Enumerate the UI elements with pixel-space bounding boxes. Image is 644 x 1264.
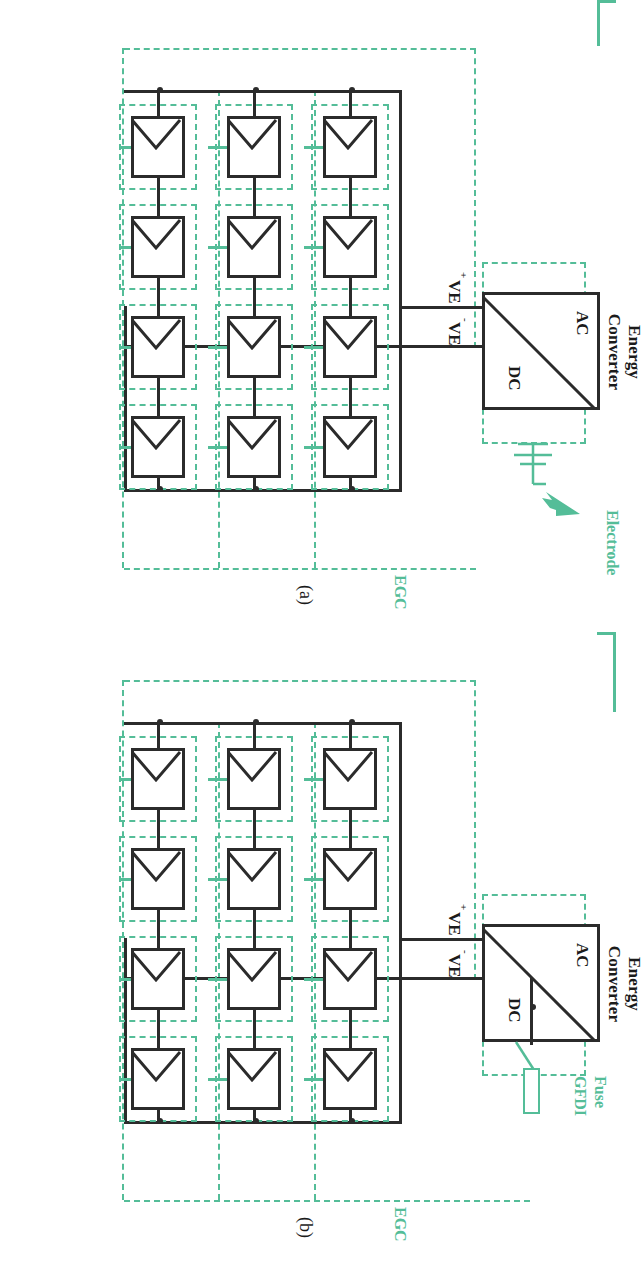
module-lead <box>349 278 352 316</box>
pv-module[interactable] <box>227 416 281 478</box>
egc-bond-stub <box>208 778 227 781</box>
electrode-arrow-icon <box>534 478 586 530</box>
pv-module[interactable] <box>323 1048 377 1110</box>
panel-label-a: (a) <box>295 585 316 605</box>
module-lead <box>349 722 352 748</box>
pv-module[interactable] <box>323 116 377 178</box>
fuse-icon[interactable] <box>523 1068 540 1114</box>
egc-bond-stub <box>304 346 323 349</box>
module-lead <box>253 90 256 116</box>
module-lead <box>157 910 160 948</box>
positive-sign: + <box>458 904 470 910</box>
egc-outer-left <box>124 680 476 682</box>
junction-node <box>157 87 163 93</box>
electrode-lead <box>598 0 601 46</box>
junction-node <box>253 87 259 93</box>
junction-node <box>157 719 163 725</box>
pv-module[interactable] <box>131 1048 185 1110</box>
egc-bond-stub <box>119 978 131 981</box>
egc-outer-top-left <box>474 48 476 348</box>
dc-bus-positive-top <box>399 722 402 1124</box>
egc-bond-stub <box>304 146 323 149</box>
pv-module[interactable] <box>323 216 377 278</box>
egc-outer-right <box>124 568 476 570</box>
electrode-label: Electrode <box>603 510 622 640</box>
converter-title-line1: Energy <box>625 957 644 1011</box>
junction-node <box>253 486 259 492</box>
converter-title-line1: Energy <box>625 325 644 379</box>
panel-label-b: (b) <box>295 1217 316 1238</box>
module-lead <box>157 378 160 416</box>
junction-node <box>157 1118 163 1124</box>
module-lead <box>349 1010 352 1048</box>
module-lead <box>349 378 352 416</box>
junction-node <box>253 1118 259 1124</box>
pv-module[interactable] <box>323 416 377 478</box>
egc-outer-right <box>124 1200 530 1202</box>
egc-bond-stub <box>304 778 323 781</box>
negative-terminal-label: VE <box>444 322 464 346</box>
egc-bond-stub <box>208 878 227 881</box>
egc-bond-stub <box>208 1078 227 1081</box>
junction-node <box>349 719 355 725</box>
converter-title: Energy Converter <box>605 252 644 452</box>
gfdi-tap-lead <box>530 977 533 1045</box>
dc-bus-positive-left <box>124 722 402 725</box>
converter-box[interactable] <box>482 292 600 410</box>
converter-title-line2: Converter <box>605 946 624 1022</box>
pv-module[interactable] <box>131 948 185 1010</box>
gfdi-label: Fuse GFDI <box>570 1076 610 1206</box>
egc-bond-stub <box>119 146 131 149</box>
egc-bond-stub <box>304 878 323 881</box>
pv-module[interactable] <box>131 748 185 810</box>
module-lead <box>349 90 352 116</box>
gfdi-label-line2: GFDI <box>572 1076 589 1116</box>
pv-module[interactable] <box>227 948 281 1010</box>
pv-module[interactable] <box>323 948 377 1010</box>
egc-label: EGC <box>391 1207 410 1242</box>
egc-to-gfdi <box>614 632 617 712</box>
egc-bond-stub <box>304 446 323 449</box>
converter-dc-label: DC <box>504 366 524 391</box>
pv-module[interactable] <box>227 1048 281 1110</box>
pv-module[interactable] <box>131 116 185 178</box>
converter-box[interactable] <box>482 924 600 1042</box>
pv-module[interactable] <box>323 316 377 378</box>
pv-module[interactable] <box>227 316 281 378</box>
pv-module[interactable] <box>131 316 185 378</box>
positive-lead <box>400 306 486 309</box>
egc-outer-left <box>124 48 476 50</box>
module-lead <box>253 178 256 216</box>
module-lead <box>349 178 352 216</box>
module-lead <box>253 810 256 848</box>
converter-dc-label: DC <box>504 998 524 1023</box>
converter-title: Energy Converter <box>605 884 644 1084</box>
pv-module[interactable] <box>131 216 185 278</box>
pv-module[interactable] <box>227 748 281 810</box>
pv-module[interactable] <box>227 848 281 910</box>
positive-terminal-label: VE <box>444 912 464 936</box>
egc-bond-stub <box>208 346 227 349</box>
egc-bond-stub <box>119 246 131 249</box>
egc-bond-stub <box>208 446 227 449</box>
pv-module[interactable] <box>131 848 185 910</box>
negative-terminal-label: VE <box>444 954 464 978</box>
pv-module[interactable] <box>131 416 185 478</box>
module-lead <box>349 910 352 948</box>
egc-bond-stub <box>304 978 323 981</box>
module-lead <box>253 378 256 416</box>
egc-bond-stub <box>208 978 227 981</box>
pv-module[interactable] <box>323 748 377 810</box>
positive-terminal-label: VE <box>444 280 464 304</box>
pv-module[interactable] <box>227 116 281 178</box>
egc-bond-stub <box>119 878 131 881</box>
module-lead <box>157 278 160 316</box>
pv-module[interactable] <box>227 216 281 278</box>
junction-node <box>530 1004 536 1010</box>
dc-bus-positive-left <box>124 90 402 93</box>
junction-node <box>349 1118 355 1124</box>
junction-node <box>157 486 163 492</box>
pv-module[interactable] <box>323 848 377 910</box>
converter-title-line2: Converter <box>605 314 624 390</box>
